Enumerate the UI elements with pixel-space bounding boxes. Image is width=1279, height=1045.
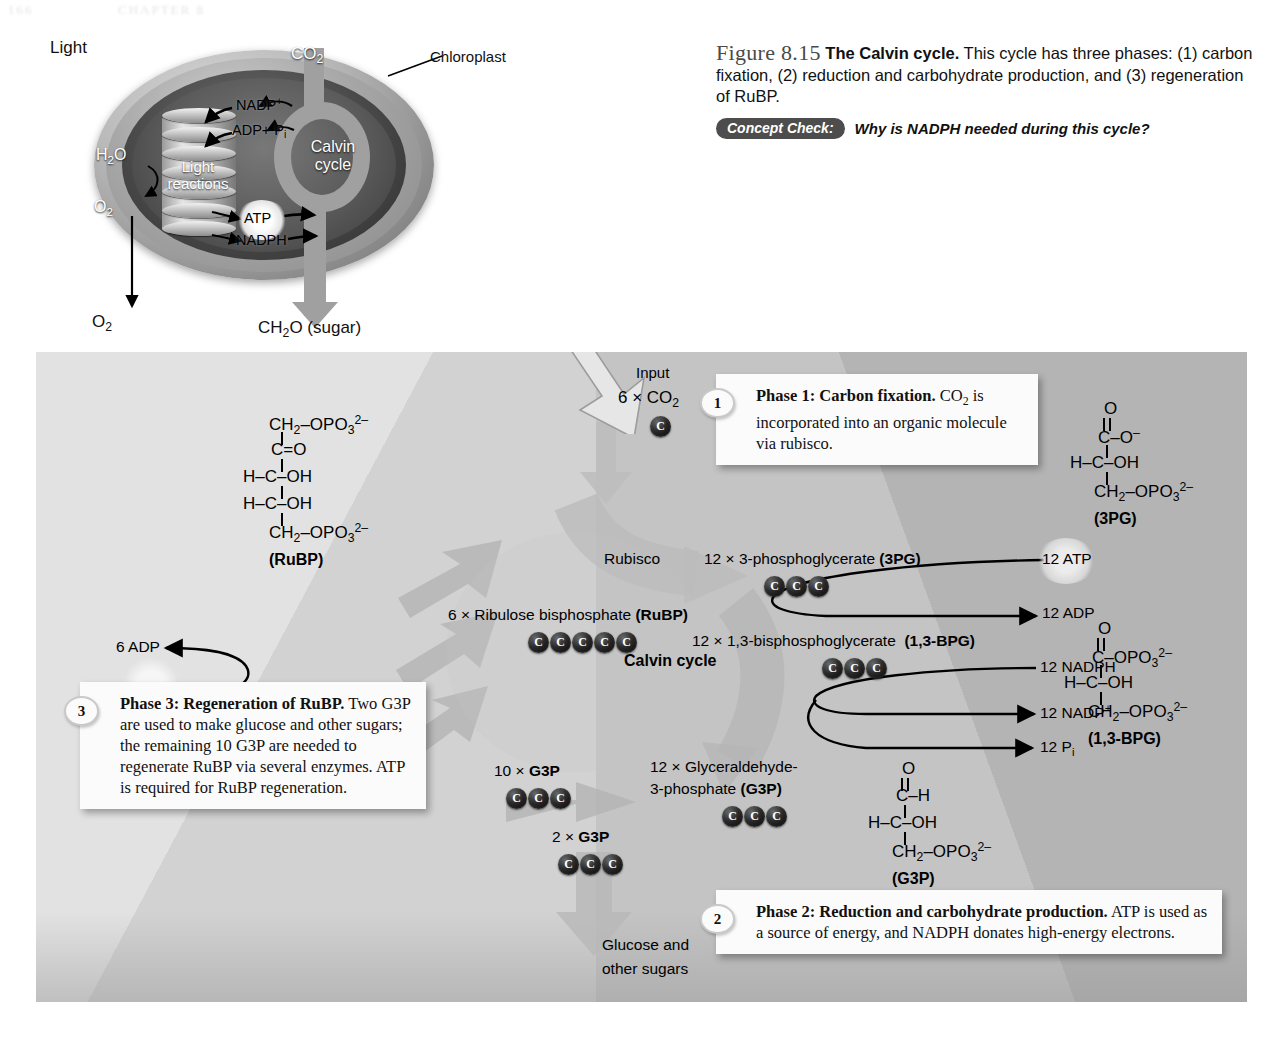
rubp-line-3: H–C–OH [221, 468, 368, 495]
callout-2-number: 2 [700, 904, 735, 934]
rubp-structure-name: (RuBP) [269, 552, 368, 568]
carbon-bead: C [722, 806, 743, 827]
carbon-bead: C [602, 854, 623, 875]
g3p-ten-label: 10 × G3P [494, 762, 560, 780]
light-reactions-label: Light reactions [158, 158, 238, 192]
light-label: Light [50, 38, 87, 58]
g3p-line-2: C–H [854, 787, 991, 814]
input-molecule-label: 6 × CO2 [618, 388, 679, 410]
carbon-bead: C [580, 854, 601, 875]
concept-check-question: Why is NADPH needed during this cycle? [855, 120, 1150, 137]
o2-inner-label: O2 [94, 198, 113, 218]
bpg13-carbon-beads: C C C [822, 658, 887, 679]
bpg13-label: 12 × 1,3-bisphosphoglycerate (1,3-BPG) [692, 632, 975, 650]
carbon-bead: C [808, 576, 829, 597]
g3p-line-1: O [854, 760, 991, 787]
bpg13-line-1: O [1050, 620, 1187, 647]
pg3-line-3: H–C–OH [1056, 454, 1193, 481]
carbon-bead: C [558, 854, 579, 875]
calvin-cycle-center-label: Calvin cycle [624, 652, 717, 670]
bpg13-structure-name: (1,3-BPG) [1088, 731, 1187, 747]
rubp-line-5: CH2–OPO32– [221, 522, 368, 549]
figure-title: The Calvin cycle. [825, 44, 959, 62]
sugar-output-arrow-shaft [304, 198, 326, 316]
pg3-structure: O C–O– H–C–OH CH2–OPO32– (3PG) [1056, 400, 1193, 527]
bpg13-line-2: C–OPO32– [1050, 647, 1187, 674]
rubp-line-4: H–C–OH [221, 495, 368, 522]
input-label: Input [636, 364, 669, 381]
g3p-structure-name: (G3P) [892, 871, 991, 887]
pg3-line-1: O [1056, 400, 1193, 427]
rubp-label: 6 × Ribulose bisphosphate (RuBP) [448, 606, 688, 624]
carbon-bead: C [766, 806, 787, 827]
g3p-line-3: H–C–OH [854, 814, 991, 841]
rubp-line-2: C=O [221, 441, 368, 468]
nadph-label: NADPH [236, 232, 287, 248]
rubp-line-1: CH2–OPO32– [221, 414, 368, 441]
carbon-bead: C [650, 416, 671, 437]
pg3-carbon-beads: C C C [764, 576, 829, 597]
o2-output-label: O2 [92, 312, 112, 334]
g3p-ten-carbon-beads: C C C [506, 788, 571, 809]
co2-label: CO2 [291, 44, 323, 66]
rubp-structure: CH2–OPO32– C=O H–C–OH H–C–OH CH2–OPO32– … [221, 414, 368, 568]
g3p-main-carbon-beads: C C C [722, 806, 787, 827]
output-label-line1: Glucose and [602, 936, 689, 954]
nadp-plus-label: NADP+ [236, 96, 282, 113]
carbon-bead: C [550, 632, 571, 653]
figure-caption: Figure 8.15 The Calvin cycle. This cycle… [716, 42, 1256, 139]
bpg13-line-4: CH2–OPO32– [1050, 701, 1187, 728]
carbon-bead: C [528, 632, 549, 653]
pg3-line-2: C–O– [1056, 427, 1193, 454]
h2o-label: H2O [96, 146, 126, 166]
carbon-bead: C [506, 788, 527, 809]
calvin-cycle-label: Calvin cycle [298, 138, 368, 174]
g3p-line-4: CH2–OPO32– [854, 841, 991, 868]
g3p-structure: O C–H H–C–OH CH2–OPO32– (G3P) [854, 760, 991, 887]
concept-check: Concept Check: Why is NADPH needed durin… [716, 118, 1256, 139]
pg3-label: 12 × 3-phosphoglycerate (3PG) [704, 550, 921, 568]
callout-1-number: 1 [700, 388, 735, 418]
carbon-bead: C [744, 806, 765, 827]
sugar-output-label: CH2O (sugar) [258, 318, 361, 340]
callout-phase-2: 2 Phase 2: Reduction and carbohydrate pr… [716, 890, 1222, 954]
rubisco-label: Rubisco [604, 550, 660, 568]
caption-text-block: Figure 8.15 The Calvin cycle. This cycle… [716, 42, 1256, 108]
carbon-bead: C [786, 576, 807, 597]
atp12-label: 12 ATP [1042, 550, 1092, 568]
carbon-bead: C [764, 576, 785, 597]
calvin-cycle-panel: Input 6 × CO2 C Rubisco 12 × 3-phosphogl… [36, 352, 1247, 1002]
carbon-bead: C [844, 658, 865, 679]
bpg13-structure: O C–OPO32– H–C–OH CH2–OPO32– (1,3-BPG) [1050, 620, 1187, 747]
input-carbon-beads: C [650, 416, 671, 437]
carbon-bead: C [550, 788, 571, 809]
g3p-two-carbon-beads: C C C [558, 854, 623, 875]
chapter-label: CHAPTER 8 [118, 2, 205, 18]
carbon-bead: C [616, 632, 637, 653]
page-header: 166 CHAPTER 8 [0, 2, 360, 18]
adp6-label: 6 ADP [116, 638, 160, 656]
chloroplast-illustration: Light CO2 Chloroplast NADP+ ADP+ Pi H2O … [36, 30, 456, 360]
bpg13-line-3: H–C–OH [1050, 674, 1187, 701]
callout-1-title: Phase 1: Carbon fixation. [756, 386, 936, 405]
rubp-carbon-beads: C C C C C [528, 632, 637, 653]
callout-2-title: Phase 2: Reduction and carbohydrate prod… [756, 902, 1108, 921]
chloroplast-label: Chloroplast [430, 48, 506, 65]
atp-label: ATP [244, 210, 271, 226]
pg3-line-4: CH2–OPO32– [1056, 481, 1193, 508]
carbon-bead: C [528, 788, 549, 809]
callout-3-number: 3 [64, 696, 99, 726]
light-beam-icon [76, 56, 166, 152]
g3p-two-label: 2 × G3P [552, 828, 609, 846]
g3p-main-label-line2: 3-phosphate (G3P) [650, 780, 782, 798]
carbon-bead: C [572, 632, 593, 653]
callout-3-title: Phase 3: Regeneration of RuBP. [120, 694, 344, 713]
callout-phase-3: 3 Phase 3: Regeneration of RuBP. Two G3P… [80, 682, 426, 809]
g3p-main-label-line1: 12 × Glyceraldehyde- [650, 758, 798, 776]
output-label-line2: other sugars [602, 960, 688, 978]
carbon-bead: C [822, 658, 843, 679]
callout-phase-1: 1 Phase 1: Carbon fixation. CO2 is incor… [716, 374, 1038, 465]
carbon-bead: C [866, 658, 887, 679]
adp-pi-label: ADP+ Pi [232, 122, 286, 140]
page-number: 166 [8, 2, 34, 18]
